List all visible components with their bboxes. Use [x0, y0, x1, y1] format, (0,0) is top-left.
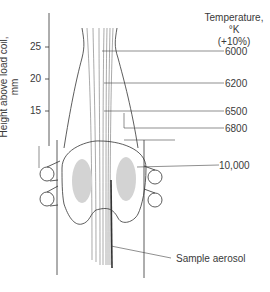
temperature-legend-title: Temperature, °K (+10%)	[200, 12, 268, 48]
temp-label-6500: 6500	[225, 106, 247, 117]
temp-label-6000: 6000	[225, 46, 247, 57]
leader-sample	[111, 246, 171, 258]
y-tick-label-15: 15	[30, 105, 41, 116]
temp-label-10000: 10,000	[219, 160, 250, 171]
temperature-legend-line1: Temperature, °K	[200, 12, 268, 36]
plume-right-edge	[115, 28, 138, 148]
sample-aerosol-label: Sample aerosol	[176, 253, 245, 264]
leader-10000	[137, 165, 219, 167]
y-tick-label-25: 25	[30, 41, 41, 52]
coil-left-lower	[40, 192, 54, 206]
leader-6800	[124, 113, 224, 128]
temp-label-6800: 6800	[225, 123, 247, 134]
coil-right-lower	[148, 193, 162, 207]
y-tick-label-20: 20	[30, 73, 41, 84]
coil-right-upper	[148, 170, 162, 184]
coil-left-upper	[40, 167, 54, 181]
y-axis-label: Height above load coil, mm	[0, 32, 20, 142]
hot-zone-right	[116, 157, 136, 201]
plume-left-edge	[64, 28, 84, 148]
hot-zone-left	[72, 159, 92, 203]
temp-label-6200: 6200	[225, 78, 247, 89]
